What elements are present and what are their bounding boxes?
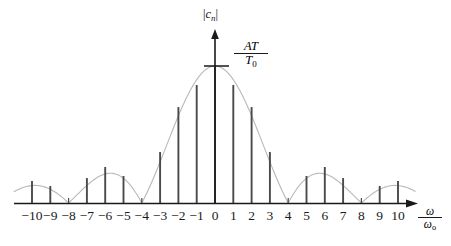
x-axis-label-denominator: ωo — [418, 217, 442, 233]
x-axis-label-numerator: ω — [418, 205, 442, 217]
envelope-lobe — [14, 185, 68, 202]
axes-group — [14, 29, 418, 207]
amplitude-label-denominator: T0 — [234, 53, 268, 69]
spectrum-figure: −10−9−8−7−6−5−4−3−2−1012345678910 |cn| A… — [0, 0, 451, 246]
x-axis-label-denominator-subscript: o — [432, 223, 436, 232]
x-axis-arrow-icon — [406, 200, 418, 208]
y-axis-label-bar-right: | — [216, 7, 219, 21]
amplitude-label-denominator-subscript: 0 — [252, 59, 257, 69]
x-axis-label-denominator-symbol: ω — [424, 218, 432, 230]
x-tick-label: 10 — [384, 209, 412, 223]
amplitude-label-numerator: AT — [234, 40, 268, 53]
x-axis-label: ω ωo — [418, 205, 442, 233]
y-axis-arrow-icon — [211, 29, 219, 39]
y-axis-label: |cn| — [203, 8, 218, 23]
amplitude-label: AT T0 — [234, 40, 268, 69]
